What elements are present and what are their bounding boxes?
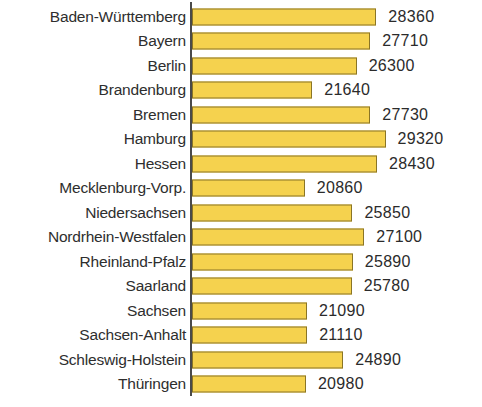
value-label: 25890 xyxy=(365,253,411,271)
category-label: Hamburg xyxy=(124,130,186,148)
bar xyxy=(192,327,307,344)
bar xyxy=(192,82,312,99)
value-label: 20980 xyxy=(318,375,364,393)
category-label: Sachsen xyxy=(127,302,186,320)
bar-row: Brandenburg21640 xyxy=(0,78,482,103)
bar-row: Bayern27710 xyxy=(0,29,482,54)
value-label: 27710 xyxy=(382,32,428,50)
bar xyxy=(192,278,352,295)
bar xyxy=(192,33,370,50)
bar-row: Rheinland-Pfalz25890 xyxy=(0,250,482,275)
value-label: 21090 xyxy=(319,302,365,320)
bar xyxy=(192,376,306,393)
value-label: 27730 xyxy=(382,106,428,124)
value-label: 21110 xyxy=(319,326,363,344)
value-label: 28430 xyxy=(389,155,435,173)
category-label: Nordrhein-Westfalen xyxy=(48,228,186,246)
bar xyxy=(192,302,307,319)
category-label: Saarland xyxy=(126,277,186,295)
bar xyxy=(192,155,377,172)
bar-row: Thüringen20980 xyxy=(0,372,482,397)
bar-row: Baden-Württemberg28360 xyxy=(0,5,482,30)
category-label: Schleswig-Holstein xyxy=(59,351,186,369)
bar-row: Mecklenburg-Vorp.20860 xyxy=(0,176,482,201)
category-label: Bayern xyxy=(138,32,186,50)
value-label: 24890 xyxy=(355,351,401,369)
bar-row: Bremen27730 xyxy=(0,103,482,128)
category-label: Niedersachsen xyxy=(85,204,186,222)
value-label: 25780 xyxy=(364,277,410,295)
category-label: Rheinland-Pfalz xyxy=(80,253,186,271)
bar-row: Sachsen21090 xyxy=(0,299,482,324)
bar xyxy=(192,106,370,123)
category-label: Hessen xyxy=(135,155,186,173)
bar xyxy=(192,131,386,148)
bar xyxy=(192,8,376,25)
bar xyxy=(192,229,364,246)
bar xyxy=(192,57,357,74)
value-label: 28360 xyxy=(388,8,434,26)
bar-row: Schleswig-Holstein24890 xyxy=(0,348,482,373)
bar xyxy=(192,180,305,197)
bar-row: Niedersachsen25850 xyxy=(0,201,482,226)
value-label: 25850 xyxy=(364,204,410,222)
bar-row: Saarland25780 xyxy=(0,274,482,299)
bar-row: Hessen28430 xyxy=(0,152,482,177)
category-label: Brandenburg xyxy=(99,81,186,99)
bar-row: Hamburg29320 xyxy=(0,127,482,152)
category-label: Berlin xyxy=(148,57,186,75)
value-label: 27100 xyxy=(376,228,422,246)
bar-row: Sachsen-Anhalt21110 xyxy=(0,323,482,348)
value-label: 21640 xyxy=(324,81,370,99)
bar xyxy=(192,253,353,270)
category-label: Mecklenburg-Vorp. xyxy=(59,179,186,197)
category-label: Sachsen-Anhalt xyxy=(79,326,186,344)
category-label: Thüringen xyxy=(118,375,186,393)
value-label: 29320 xyxy=(398,130,444,148)
category-label: Baden-Württemberg xyxy=(50,8,186,26)
value-label: 20860 xyxy=(317,179,363,197)
value-label: 26300 xyxy=(369,57,415,75)
bar-chart: Baden-Württemberg28360Bayern27710Berlin2… xyxy=(0,0,482,407)
bar-row: Nordrhein-Westfalen27100 xyxy=(0,225,482,250)
bar xyxy=(192,204,352,221)
category-label: Bremen xyxy=(133,106,186,124)
bar xyxy=(192,351,343,368)
bar-rows: Baden-Württemberg28360Bayern27710Berlin2… xyxy=(0,0,482,407)
bar-row: Berlin26300 xyxy=(0,54,482,79)
